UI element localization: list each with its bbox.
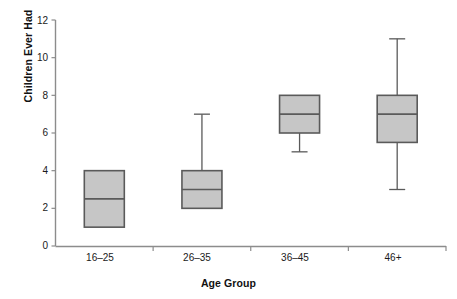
- box-iqr: [377, 95, 417, 142]
- boxes-layer: [84, 39, 417, 227]
- box-plot-3: [280, 95, 320, 151]
- box-plot-2: [182, 114, 222, 208]
- box-plot-4: [377, 39, 417, 190]
- plot-area: [0, 0, 457, 299]
- box-plot-1: [84, 171, 124, 228]
- box-plot-chart: Children Ever Had Age Group 0 2 4 6 8 10…: [0, 0, 457, 299]
